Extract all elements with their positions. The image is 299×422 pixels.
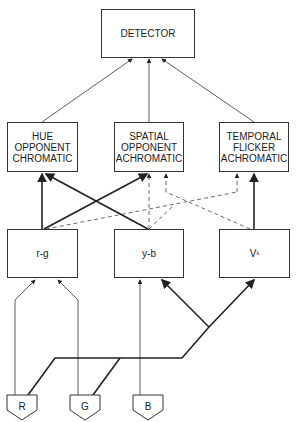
y-b-box: y-b	[114, 229, 184, 278]
channel-label-line: OPPONENT	[14, 142, 70, 153]
receptor-g: G	[70, 401, 100, 412]
channel-label-line: CHROMATIC	[13, 153, 73, 164]
v-label: V	[250, 248, 257, 259]
lambda-subscript: λ	[256, 248, 259, 259]
spatial-opponent-achromatic-box: SPATIAL OPPONENT ACHROMATIC	[114, 122, 184, 172]
v-lambda-box: Vλ	[219, 229, 290, 278]
hue-opponent-chromatic-box: HUE OPPONENT CHROMATIC	[7, 122, 78, 172]
receptor-r: R	[7, 401, 37, 412]
detector-box: DETECTOR	[101, 9, 195, 58]
detector-label: DETECTOR	[121, 28, 176, 39]
channel-label-line: OPPONENT	[121, 142, 177, 153]
channel-label-line: SPATIAL	[129, 131, 169, 142]
channel-label-line: TEMPORAL	[226, 131, 281, 142]
receptor-b: B	[133, 401, 163, 412]
temporal-flicker-achromatic-box: TEMPORAL FLICKER ACHROMATIC	[219, 122, 289, 172]
channel-label-line: HUE	[32, 131, 53, 142]
channel-label-line: ACHROMATIC	[116, 153, 182, 164]
channel-label-line: ACHROMATIC	[221, 153, 287, 164]
r-g-box: r-g	[7, 229, 78, 278]
connection-lines	[0, 0, 299, 422]
r-g-label: r-g	[36, 248, 48, 259]
y-b-label: y-b	[142, 248, 156, 259]
channel-label-line: FLICKER	[233, 142, 275, 153]
